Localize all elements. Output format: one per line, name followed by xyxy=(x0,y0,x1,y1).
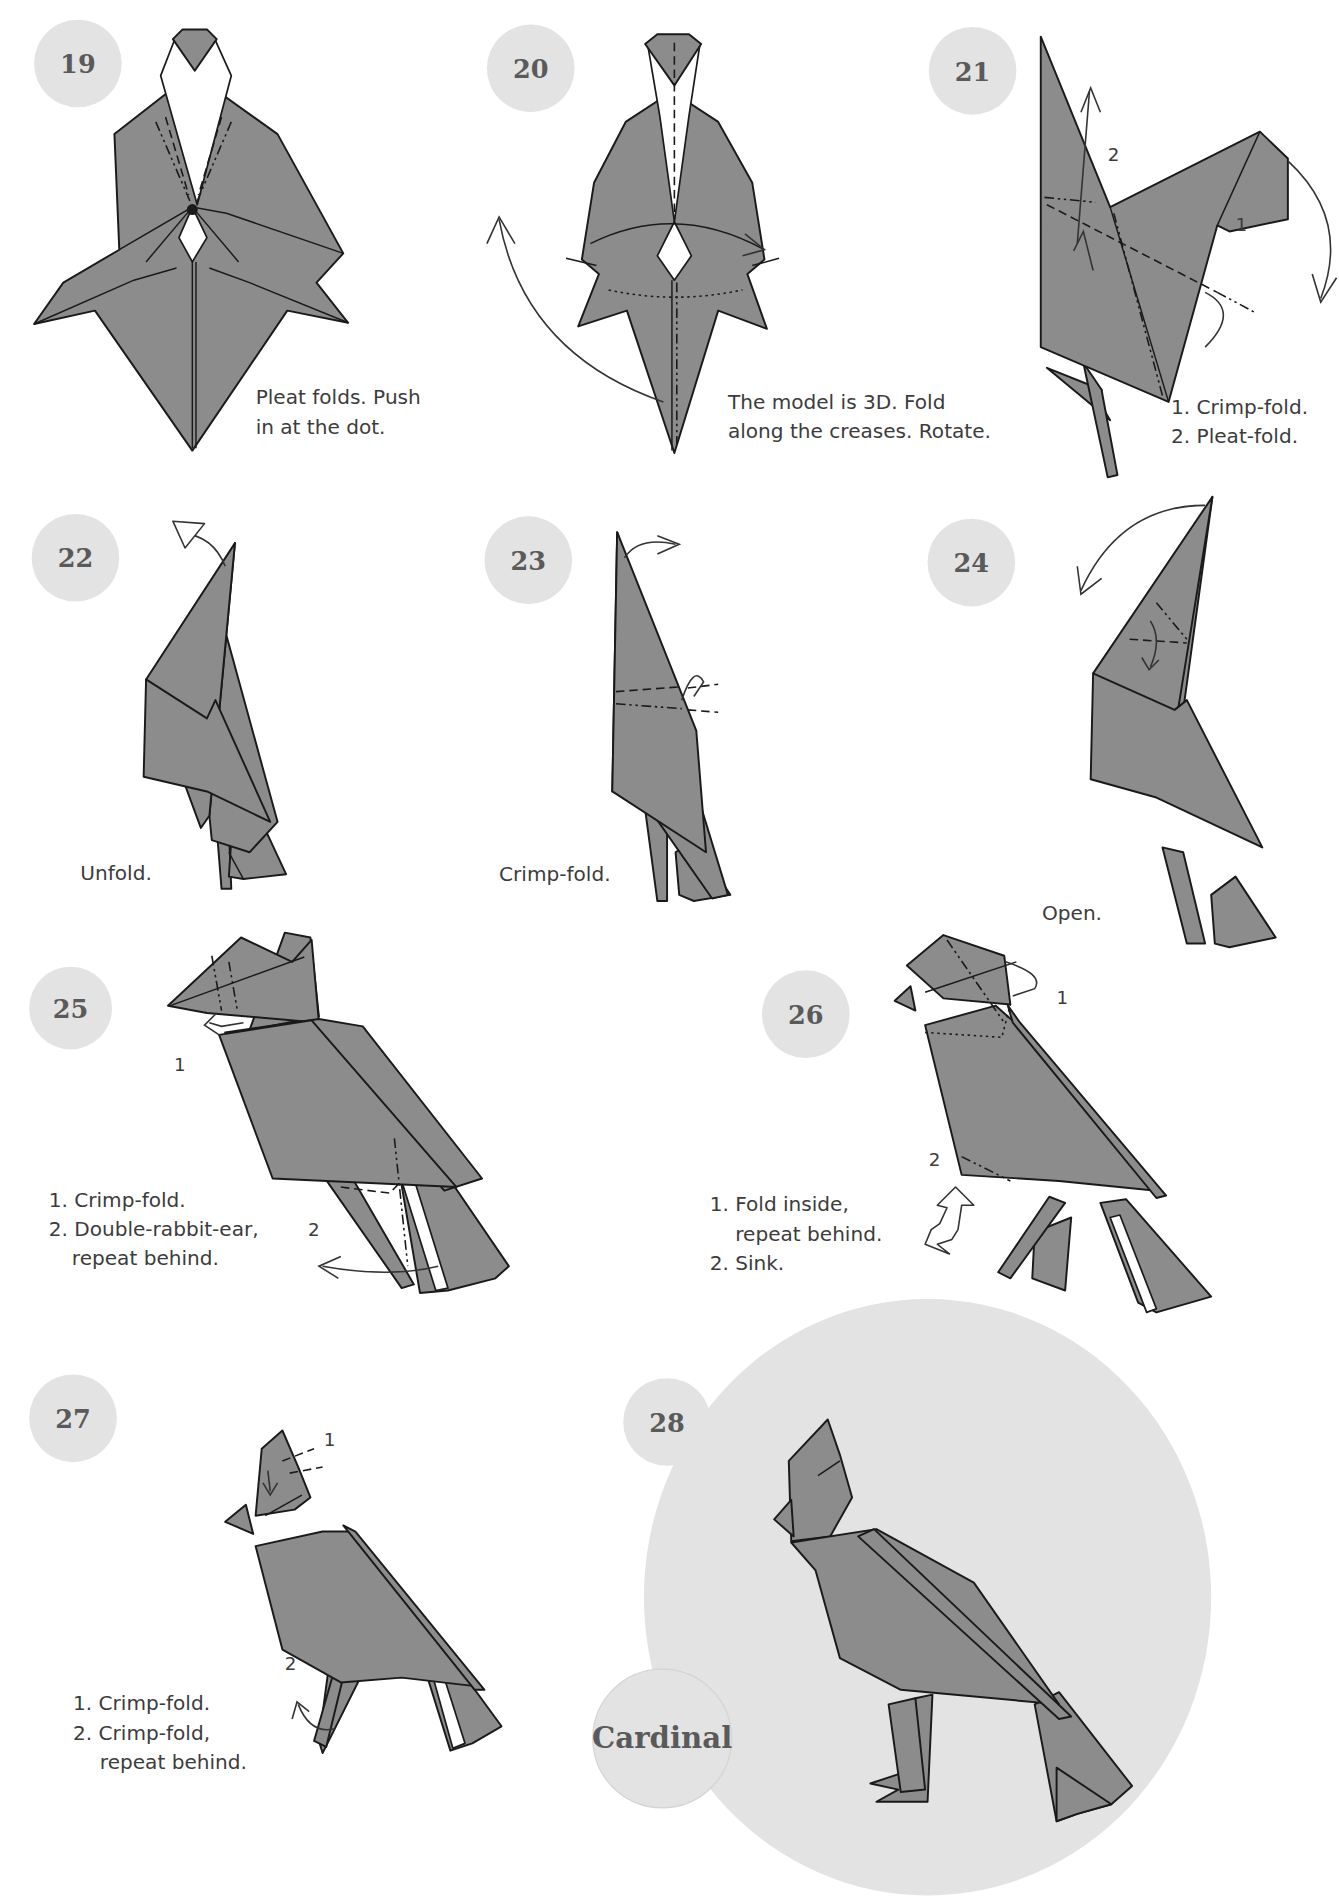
fold-label-2: 2 xyxy=(1108,144,1120,165)
step-caption: Open. xyxy=(1042,901,1102,925)
diagram-page: 19 Pleat folds. Push in at the dot. 20 xyxy=(0,0,1339,1903)
fold-label-2: 2 xyxy=(285,1653,297,1674)
step-caption-line-2: 2. Pleat-fold. xyxy=(1171,424,1298,448)
step-caption-line-1: 1. Crimp-fold. xyxy=(49,1188,186,1212)
step-number: 20 xyxy=(513,54,549,84)
step-21: 21 2 1 1. Crimp-fold. 2. Pleat-fold. xyxy=(929,27,1337,477)
step-caption-line-1: Pleat folds. Push xyxy=(256,385,421,409)
step-caption-line-2: along the creases. Rotate. xyxy=(728,419,991,443)
origami-diagram-24 xyxy=(1077,497,1275,947)
step-caption-line-2: in at the dot. xyxy=(256,415,386,439)
step-caption: Crimp-fold. xyxy=(499,863,610,887)
step-22: 22 Unfold. xyxy=(32,514,286,889)
step-28-final-model: 28 Cardinal xyxy=(592,1299,1211,1895)
step-23: 23 Crimp-fold. xyxy=(484,516,730,901)
step-19: 19 Pleat folds. Push in at the dot. xyxy=(34,20,421,451)
step-caption: Unfold. xyxy=(80,861,151,885)
fold-label-1: 1 xyxy=(1057,987,1069,1008)
step-number: 26 xyxy=(788,1000,824,1030)
step-number: 28 xyxy=(649,1408,685,1438)
step-number: 27 xyxy=(55,1404,91,1434)
step-caption-line-1: 1. Crimp-fold. xyxy=(1171,395,1308,419)
model-title: Cardinal xyxy=(592,1721,732,1755)
step-caption-line-3: repeat behind. xyxy=(72,1246,219,1270)
step-caption-line-3: repeat behind. xyxy=(100,1750,247,1774)
step-number: 25 xyxy=(53,994,89,1024)
step-caption-line-2: 2. Crimp-fold, xyxy=(73,1721,210,1745)
step-26: 26 1 2 1. Fold inside, repeat behind. 2.… xyxy=(710,935,1212,1312)
fold-label-1: 1 xyxy=(174,1054,186,1075)
fold-label-2: 2 xyxy=(929,1149,941,1170)
push-dot-icon xyxy=(187,204,198,215)
step-caption-line-2: repeat behind. xyxy=(735,1222,882,1246)
fold-label-2: 2 xyxy=(308,1219,320,1240)
origami-diagram-27: 1 2 xyxy=(225,1429,501,1753)
step-number: 22 xyxy=(58,543,94,573)
origami-diagram-23 xyxy=(612,532,730,901)
step-caption-line-1: 1. Fold inside, xyxy=(710,1192,849,1216)
step-caption-line-1: The model is 3D. Fold xyxy=(727,390,946,414)
step-20: 20 The model is 3D. Fold along the creas… xyxy=(487,25,991,453)
fold-label-1: 1 xyxy=(1236,214,1248,235)
origami-diagram-22 xyxy=(144,521,286,889)
step-24: 24 Open. xyxy=(928,497,1276,947)
origami-diagram-26: 1 2 xyxy=(895,935,1211,1312)
step-caption-line-3: 2. Sink. xyxy=(710,1251,785,1275)
step-27: 27 1 2 1. Crimp-fold. 2. Crimp-fold, rep… xyxy=(29,1375,501,1774)
fold-label-1: 1 xyxy=(324,1429,336,1450)
step-number: 23 xyxy=(511,546,547,576)
step-25: 25 1 2 1. Crimp-fold. 2. Double-rabbit-e… xyxy=(29,933,509,1293)
step-caption-line-1: 1. Crimp-fold. xyxy=(73,1691,210,1715)
step-number: 21 xyxy=(955,57,991,87)
step-caption-line-2: 2. Double-rabbit-ear, xyxy=(49,1217,259,1241)
step-number: 24 xyxy=(954,548,990,578)
step-number: 19 xyxy=(60,49,96,79)
